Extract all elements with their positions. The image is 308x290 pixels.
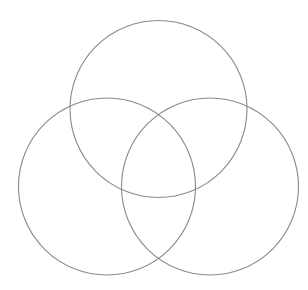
diagram-background (0, 0, 308, 290)
venn-diagram-svg (0, 0, 308, 290)
venn-diagram-canvas (0, 0, 308, 290)
